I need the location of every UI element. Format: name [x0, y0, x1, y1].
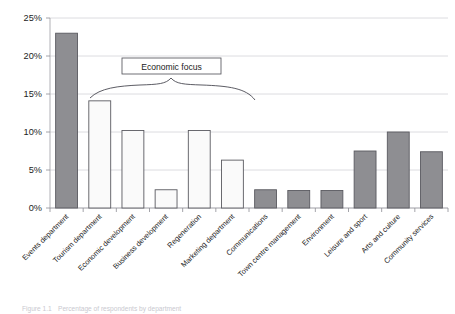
figure-caption: Figure 1.1 Percentage of respondents by …	[22, 305, 181, 313]
bar-community-services[interactable]	[420, 152, 442, 208]
bar-business-development[interactable]	[155, 190, 177, 208]
economic-focus-label: Economic focus	[141, 62, 202, 72]
x-axis-category-label: Economic development	[76, 212, 137, 273]
bar-town-centre-management[interactable]	[288, 191, 310, 208]
y-axis-tick-label: 15%	[24, 89, 42, 99]
y-axis-tick-label: 0%	[29, 203, 42, 213]
x-axis-category-labels: Events departmentTourism departmentEcono…	[20, 212, 435, 279]
y-axis-tick-label: 25%	[24, 13, 42, 23]
chart-figure: 0%5%10%15%20%25% Events departmentTouris…	[0, 0, 455, 314]
bar-communications[interactable]	[255, 190, 277, 208]
y-axis-tick-label: 5%	[29, 165, 42, 175]
figure-caption-text: Percentage of respondents by department	[58, 305, 181, 313]
bar-economic-development[interactable]	[122, 130, 144, 208]
x-axis-category-label: Town centre management	[236, 212, 303, 279]
y-axis-tick-label: 20%	[24, 51, 42, 61]
bar-tourism-department[interactable]	[89, 101, 111, 208]
bar-chart: 0%5%10%15%20%25% Events departmentTouris…	[0, 0, 455, 314]
x-axis-tick-marks	[50, 208, 448, 212]
y-axis-tick-marks	[46, 18, 50, 208]
bar-environment[interactable]	[321, 191, 343, 208]
bar-marketing-department[interactable]	[221, 160, 243, 208]
figure-caption-prefix: Figure 1.1	[22, 305, 52, 313]
x-axis-category-label: Environment	[300, 212, 336, 248]
bar-leisure-and-sport[interactable]	[354, 151, 376, 208]
y-axis-tick-label: 10%	[24, 127, 42, 137]
bar-regeneration[interactable]	[188, 130, 210, 208]
y-axis-tick-labels: 0%5%10%15%20%25%	[24, 13, 42, 213]
bar-arts-and-culture[interactable]	[387, 132, 409, 208]
bar-events-department[interactable]	[56, 33, 78, 208]
x-axis-category-label: Business development	[111, 212, 170, 271]
